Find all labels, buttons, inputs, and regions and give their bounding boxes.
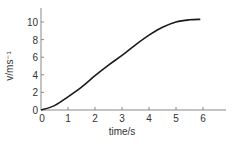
- y-tick-label: 2: [32, 87, 38, 98]
- x-tick-label: 4: [146, 113, 152, 124]
- x-tick-label: 0: [39, 113, 45, 124]
- x-tick-label: 1: [65, 113, 71, 124]
- y-tick-label: 6: [32, 52, 38, 63]
- x-tick-label: 5: [173, 113, 179, 124]
- y-tick-label: 0: [32, 105, 38, 116]
- x-tick-label: 6: [200, 113, 206, 124]
- x-axis-label: time/s: [109, 126, 136, 137]
- velocity-time-chart: 0123456 0246810 time/s v/ms⁻¹: [0, 0, 242, 147]
- y-tick-label: 8: [32, 35, 38, 46]
- y-axis-label: v/ms⁻¹: [4, 51, 15, 81]
- x-tick-label: 2: [92, 113, 98, 124]
- y-tick-label: 10: [27, 17, 39, 28]
- axes: [41, 8, 226, 110]
- y-tick-label: 4: [32, 70, 38, 81]
- x-tick-label: 3: [119, 113, 125, 124]
- velocity-curve: [41, 19, 200, 110]
